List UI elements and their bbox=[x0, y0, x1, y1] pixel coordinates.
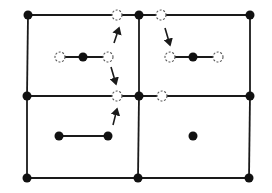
filled-site-f_d2_center bbox=[189, 53, 198, 62]
filled-site-f_d3_right bbox=[104, 132, 113, 141]
migration-arrows bbox=[111, 28, 170, 125]
arrow-up-top-left-icon bbox=[114, 28, 119, 43]
diagram-canvas bbox=[0, 0, 272, 193]
grid-node-ml bbox=[23, 92, 32, 101]
hollow-site-h_mid_right bbox=[157, 91, 167, 101]
hollow-site-h_top_right bbox=[156, 10, 166, 20]
filled-site-f_d1_center bbox=[79, 53, 88, 62]
filled-site-f_d3_left bbox=[55, 132, 64, 141]
grid-node-mc bbox=[135, 92, 144, 101]
hollow-site-h_d2_right bbox=[213, 52, 223, 62]
grid-edge bbox=[138, 96, 139, 178]
arrow-up-bottom-left-icon bbox=[113, 109, 117, 125]
grid-node-tl bbox=[24, 11, 33, 20]
arrow-down-mid-left-icon bbox=[111, 67, 116, 84]
hollow-site-h_mid_left bbox=[112, 91, 122, 101]
hollow-site-h_d1_left bbox=[55, 52, 65, 62]
grid-edge bbox=[27, 15, 28, 96]
filled-site-f_single bbox=[189, 132, 198, 141]
grid-node-bc bbox=[134, 174, 143, 183]
hollow-site-h_top_left bbox=[112, 10, 122, 20]
grid-node-mr bbox=[246, 92, 255, 101]
grid-node-br bbox=[245, 174, 254, 183]
hollow-site-h_d1_right bbox=[103, 52, 113, 62]
lattice-migration-diagram bbox=[0, 0, 272, 193]
grid-edge bbox=[249, 96, 250, 178]
hollow-site-h_d2_left bbox=[165, 52, 175, 62]
grid-node-tc bbox=[135, 11, 144, 20]
grid-node-tr bbox=[246, 11, 255, 20]
grid-node-bl bbox=[23, 174, 32, 183]
arrow-down-top-right-icon bbox=[165, 28, 170, 45]
